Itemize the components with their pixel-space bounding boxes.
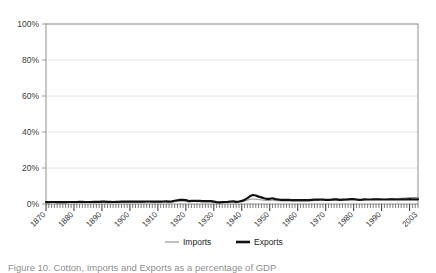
x-axis-tick-label: 1890 (84, 210, 103, 229)
x-axis-ticks (46, 204, 418, 211)
series-line-exports (46, 195, 418, 202)
figure-container: 0%20%40%60%80%100% 187018801890190019101… (0, 0, 436, 273)
x-axis-tick-label: 1940 (224, 210, 243, 229)
y-axis-tick-label: 20% (22, 163, 39, 173)
plot-frame (46, 24, 418, 204)
x-axis-labels: 1870188018901900191019201930194019501960… (28, 210, 419, 229)
y-axis-labels: 0%20%40%60%80%100% (17, 19, 39, 209)
x-axis-tick-label: 1930 (196, 210, 215, 229)
x-axis-tick-label: 1910 (140, 210, 159, 229)
y-axis-tick-label: 100% (17, 19, 39, 29)
figure-caption-text: Figure 10. Cotton, Imports and Exports a… (8, 262, 276, 273)
x-axis-tick-label: 1920 (168, 210, 187, 229)
chart-legend: ImportsExports (165, 237, 283, 247)
x-axis-tick-label: 1970 (308, 210, 327, 229)
x-axis-tick-label: 1870 (28, 210, 47, 229)
x-axis-tick-label: 1990 (364, 210, 383, 229)
y-axis-tick-label: 0% (27, 199, 40, 209)
x-axis-tick-label: 1980 (336, 210, 355, 229)
gridlines-group (46, 24, 418, 168)
x-axis-tick-label: 1880 (56, 210, 75, 229)
x-axis-tick-label: 1900 (112, 210, 131, 229)
legend-label-exports: Exports (254, 237, 283, 247)
legend-label-imports: Imports (183, 237, 211, 247)
figure-caption: Figure 10. Cotton, Imports and Exports a… (8, 262, 428, 273)
y-axis-tick-label: 40% (22, 127, 39, 137)
y-axis-tick-label: 60% (22, 91, 39, 101)
x-axis-tick-label: 1950 (252, 210, 271, 229)
data-series-group (46, 195, 418, 203)
x-axis-tick-label: 1960 (280, 210, 299, 229)
chart-canvas: 0%20%40%60%80%100% 187018801890190019101… (0, 0, 436, 273)
x-axis-tick-label: 2003 (400, 210, 419, 229)
y-axis-ticks (42, 24, 46, 204)
y-axis-tick-label: 80% (22, 55, 39, 65)
